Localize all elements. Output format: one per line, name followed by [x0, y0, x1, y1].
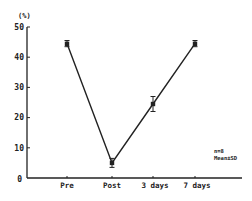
y-tick-label: 0 [17, 175, 22, 184]
line-chart: (%) 50 40 30 20 10 0 Pre Post 3 days 7 d… [0, 0, 252, 201]
y-tick-label: 40 [14, 53, 24, 62]
data-point-3days [151, 97, 156, 112]
data-point-7days [193, 41, 198, 47]
legend: n=8 Mean±SD [214, 148, 238, 161]
y-tick-label: 10 [14, 144, 24, 153]
legend-stat: Mean±SD [214, 155, 238, 161]
data-point-pre [65, 41, 70, 47]
x-tick-label-3days: 3 days [141, 181, 168, 190]
y-tick-label: 50 [14, 23, 24, 32]
x-tick-label-pre: Pre [60, 181, 74, 190]
data-line [67, 44, 195, 163]
y-axis-unit: (%) [18, 12, 31, 20]
y-tick-label: 30 [14, 83, 24, 92]
x-tick-labels: Pre Post 3 days 7 days [60, 181, 210, 190]
x-tick-label-post: Post [103, 181, 121, 190]
x-tick-label-7days: 7 days [183, 181, 210, 190]
y-tick-label: 20 [14, 113, 24, 122]
legend-n: n=8 [214, 148, 224, 154]
y-tick-labels: 50 40 30 20 10 0 [14, 23, 24, 184]
